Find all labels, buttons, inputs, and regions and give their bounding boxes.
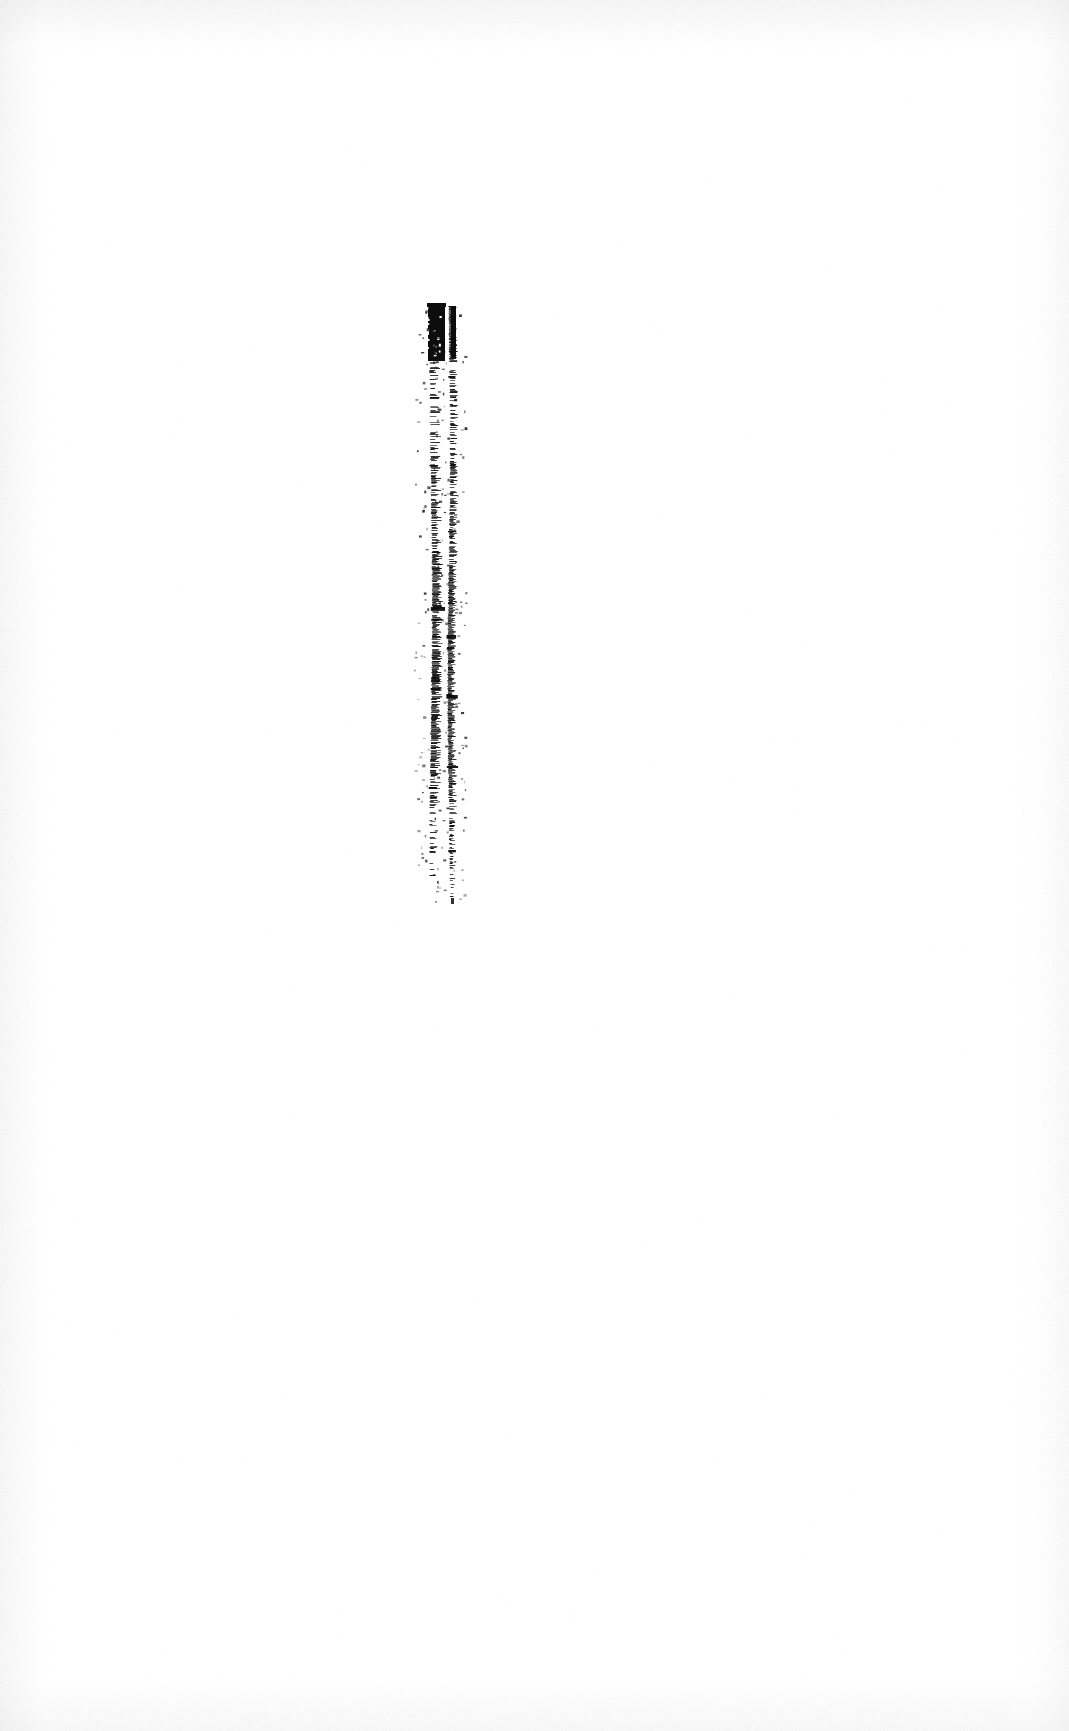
paper-grain-canvas <box>0 0 1069 1731</box>
artifact-description: Dense black vertical mark: solid block a… <box>0 0 1 1</box>
vertical-scan-streak <box>0 0 1069 1731</box>
page-body-text <box>0 0 1 1</box>
scanned-page: Dense black vertical mark: solid block a… <box>0 0 1069 1731</box>
page-label <box>0 0 1 1</box>
document-kind: scanned-page <box>0 0 1 1</box>
paper-texture <box>0 0 1069 1731</box>
